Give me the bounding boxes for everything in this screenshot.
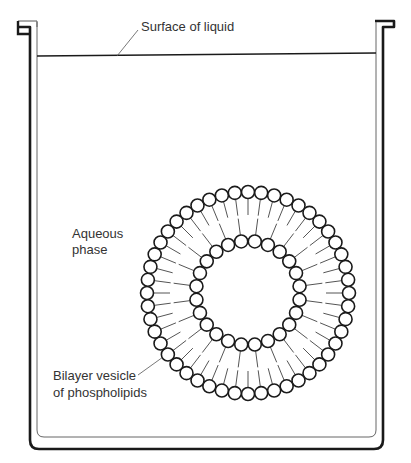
lipid-tail bbox=[295, 355, 305, 368]
lipid-tail bbox=[284, 233, 294, 246]
lipid-tail bbox=[236, 199, 238, 215]
lipid-head bbox=[144, 260, 157, 273]
lipid-tail bbox=[278, 206, 284, 221]
lipid-head bbox=[242, 186, 255, 199]
lipid-tail bbox=[181, 226, 193, 238]
lipid-head bbox=[228, 186, 241, 199]
lipid-tail bbox=[268, 368, 272, 384]
lipid-head bbox=[248, 338, 261, 351]
lipid-tail bbox=[219, 347, 225, 362]
lipid-tail bbox=[287, 361, 295, 375]
vesicle-label-line2: of phospholipids bbox=[53, 385, 147, 401]
lipid-tail bbox=[173, 340, 186, 350]
lipid-tail bbox=[287, 211, 295, 225]
lipid-tail bbox=[316, 332, 330, 340]
lipid-head bbox=[335, 325, 348, 338]
lipid-tail bbox=[295, 218, 305, 231]
lipid-tail bbox=[302, 264, 317, 270]
lipid-tail bbox=[270, 347, 276, 362]
lipid-head bbox=[290, 267, 303, 280]
lipid-head bbox=[292, 374, 305, 387]
lipid-tail bbox=[294, 247, 307, 257]
lipid-tail bbox=[325, 281, 341, 283]
lipid-tail bbox=[166, 246, 180, 254]
lipid-head bbox=[144, 313, 157, 326]
lipid-tail bbox=[188, 247, 201, 257]
lipid-tail bbox=[323, 313, 339, 317]
lipid-tail bbox=[174, 283, 190, 285]
lipid-tail bbox=[310, 340, 323, 350]
lipid-tail bbox=[154, 281, 170, 283]
lipid-head bbox=[342, 300, 355, 313]
lipid-head bbox=[235, 338, 248, 351]
lipid-head bbox=[335, 248, 348, 261]
lipid-tail bbox=[320, 257, 335, 263]
lipid-head bbox=[293, 293, 306, 306]
lipid-tail bbox=[303, 226, 315, 238]
lipid-tail bbox=[320, 323, 335, 329]
lipid-tail bbox=[256, 351, 258, 367]
lipid-tail bbox=[161, 257, 176, 263]
lipid-tail bbox=[157, 269, 173, 273]
lipid-head bbox=[280, 193, 293, 206]
lipid-head bbox=[290, 306, 303, 319]
lipid-tail bbox=[212, 365, 218, 380]
surface-leader-line bbox=[117, 30, 138, 56]
lipid-head bbox=[200, 318, 213, 331]
lipid-tail bbox=[179, 315, 194, 321]
lipid-head bbox=[280, 380, 293, 393]
lipid-tail bbox=[190, 218, 200, 231]
lipid-head bbox=[193, 267, 206, 280]
lipid-head bbox=[248, 235, 261, 248]
lipid-tail bbox=[238, 219, 240, 235]
lipid-head bbox=[190, 293, 203, 306]
lipid-tail bbox=[278, 365, 284, 380]
lipid-head bbox=[273, 328, 286, 341]
lipid-head bbox=[342, 273, 355, 286]
lipid-tail bbox=[316, 246, 330, 254]
lipid-head bbox=[210, 245, 223, 258]
lipid-tail bbox=[179, 264, 194, 270]
lipid-head bbox=[343, 287, 356, 300]
lipid-head bbox=[154, 337, 167, 350]
liquid-surface-line bbox=[37, 53, 376, 56]
lipid-tail bbox=[201, 361, 209, 375]
lipid-head bbox=[339, 313, 352, 326]
lipid-tail bbox=[224, 368, 228, 384]
lipid-head bbox=[222, 238, 235, 251]
lipid-tail bbox=[188, 329, 201, 339]
lipid-tail bbox=[270, 224, 276, 239]
lipid-tail bbox=[294, 329, 307, 339]
lipid-tail bbox=[202, 339, 212, 352]
lipid-head bbox=[329, 236, 342, 249]
lipid-head bbox=[148, 325, 161, 338]
lipid-tail bbox=[202, 233, 212, 246]
lipid-head bbox=[191, 199, 204, 212]
lipid-tail bbox=[258, 199, 260, 215]
lipid-head bbox=[215, 384, 228, 397]
lipid-head bbox=[255, 387, 268, 400]
lipid-tail bbox=[310, 235, 323, 245]
lipid-head bbox=[268, 384, 281, 397]
lipid-tail bbox=[173, 235, 186, 245]
lipid-head bbox=[261, 238, 274, 251]
lipid-tail bbox=[258, 370, 260, 386]
lipid-head bbox=[261, 335, 274, 348]
lipid-tail bbox=[302, 315, 317, 321]
lipid-head bbox=[215, 189, 228, 202]
lipid-head bbox=[283, 255, 296, 268]
lipid-head bbox=[190, 280, 203, 293]
lipid-head bbox=[141, 273, 154, 286]
lipid-tail bbox=[256, 219, 258, 235]
lipid-tail bbox=[174, 301, 190, 303]
lipid-tail bbox=[190, 355, 200, 368]
lipid-tail bbox=[268, 202, 272, 218]
lipid-tail bbox=[323, 269, 339, 273]
vesicle-label-line1: Bilayer vesicle bbox=[53, 368, 136, 384]
lipid-tail bbox=[157, 313, 173, 317]
lipid-tail bbox=[161, 323, 176, 329]
lipid-head bbox=[228, 387, 241, 400]
lipid-tail bbox=[306, 283, 322, 285]
lipid-head bbox=[141, 300, 154, 313]
lipid-head bbox=[203, 193, 216, 206]
